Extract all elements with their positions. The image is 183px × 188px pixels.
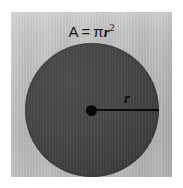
area-formula: A=πr2 [11, 24, 172, 40]
formula-area-symbol: A [69, 23, 79, 40]
radius-label: r [124, 91, 130, 106]
circle-center-dot [86, 105, 97, 116]
formula-exponent: 2 [109, 22, 114, 33]
radius-line [91, 109, 159, 111]
formula-equals-sign: = [82, 23, 91, 40]
diagram-panel: r A=πr2 [11, 12, 172, 177]
formula-pi-symbol: π [93, 23, 103, 40]
circle-area-figure: r A=πr2 [0, 0, 183, 188]
